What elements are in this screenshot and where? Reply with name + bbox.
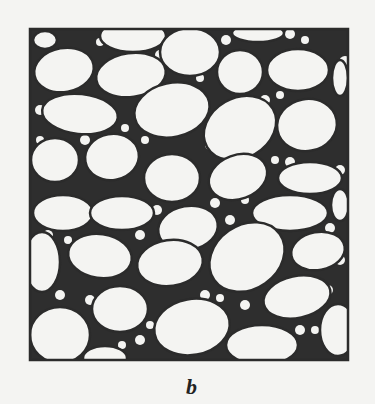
grain-packing-illustration bbox=[0, 0, 375, 404]
figure-label: b bbox=[186, 374, 197, 400]
grains bbox=[24, 20, 356, 370]
grain-field bbox=[24, 20, 356, 370]
